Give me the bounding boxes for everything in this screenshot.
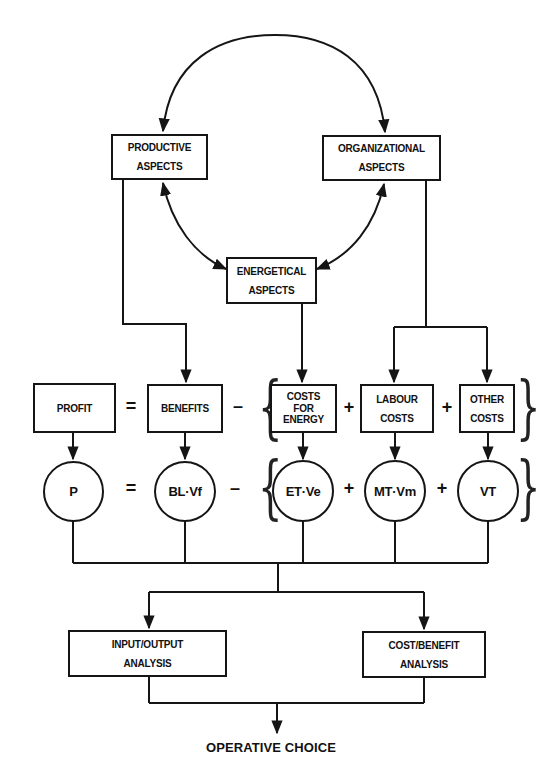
equals-sign-symbols: = <box>121 478 141 499</box>
labour-line2: COSTS <box>380 409 413 428</box>
energetical-aspects-box: ENERGETICAL ASPECTS <box>226 257 317 304</box>
mt-vm-circle: MT·Vm <box>364 460 426 522</box>
minus-sign: – <box>228 396 248 417</box>
bl-vf-circle: BL·Vf <box>154 461 216 522</box>
costs-energy-line3: ENERGY <box>283 414 324 426</box>
operative-choice-label: OPERATIVE CHOICE <box>206 740 336 755</box>
profit-box: PROFIT <box>33 383 116 433</box>
minus-sign-symbols: – <box>225 478 245 499</box>
productive-line2: ASPECTS <box>137 157 183 176</box>
labour-line1: LABOUR <box>376 390 418 409</box>
et-ve-circle: ET·Ve <box>272 460 334 522</box>
costs-for-energy-box: COSTS FOR ENERGY <box>270 384 337 433</box>
plus-sign-symbols-2: + <box>432 478 452 499</box>
bl-vf-symbol: BL·Vf <box>168 484 201 499</box>
plus-sign-symbols-1: + <box>339 478 359 499</box>
organizational-aspects-box: ORGANIZATIONAL ASPECTS <box>322 135 441 181</box>
costs-energy-line2: FOR <box>293 403 314 415</box>
plus-sign-2: + <box>437 397 457 418</box>
input-output-analysis-box: INPUT/OUTPUT ANALYSIS <box>68 630 227 677</box>
input-output-line1: INPUT/OUTPUT <box>112 635 184 654</box>
input-output-line2: ANALYSIS <box>123 654 171 673</box>
vt-circle: VT <box>457 460 519 522</box>
plus-sign-1: + <box>339 397 359 418</box>
organizational-line1: ORGANIZATIONAL <box>338 139 425 158</box>
line-productive-benefits <box>123 180 186 382</box>
arc-organizational-energetical <box>317 184 384 269</box>
organizational-line2: ASPECTS <box>359 158 405 177</box>
cost-benefit-line2: ANALYSIS <box>400 655 448 674</box>
arc-productive-organizational <box>163 35 385 132</box>
productive-line1: PRODUCTIVE <box>128 138 192 157</box>
other-costs-box: OTHER COSTS <box>459 384 515 433</box>
cost-benefit-analysis-box: COST/BENEFIT ANALYSIS <box>362 631 486 678</box>
energetical-line2: ASPECTS <box>249 281 295 300</box>
equals-sign: = <box>121 396 141 417</box>
benefits-label: BENEFITS <box>161 399 209 418</box>
arc-productive-energetical <box>163 183 226 269</box>
close-brace-top: } <box>516 372 541 442</box>
et-ve-symbol: ET·Ve <box>286 484 321 499</box>
close-brace-bottom: } <box>516 452 541 522</box>
benefits-box: BENEFITS <box>147 384 223 433</box>
profit-label: PROFIT <box>57 399 92 418</box>
costs-energy-line1: COSTS <box>287 391 320 403</box>
p-symbol: P <box>69 484 77 499</box>
cost-benefit-line1: COST/BENEFIT <box>389 636 460 655</box>
other-line2: COSTS <box>470 409 503 428</box>
productive-aspects-box: PRODUCTIVE ASPECTS <box>111 134 208 180</box>
mt-vm-symbol: MT·Vm <box>374 484 416 499</box>
labour-costs-box: LABOUR COSTS <box>360 384 434 433</box>
p-circle: P <box>43 461 104 522</box>
vt-symbol: VT <box>480 484 496 499</box>
energetical-line1: ENERGETICAL <box>237 262 306 281</box>
other-line1: OTHER <box>470 390 504 409</box>
